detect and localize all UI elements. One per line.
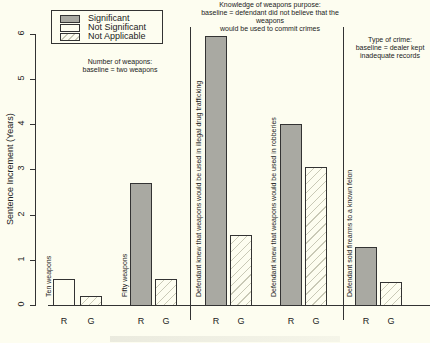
y-tick bbox=[30, 124, 35, 125]
category-label-fifty-weapons: Fifty weapons bbox=[121, 254, 128, 297]
bar-g bbox=[80, 296, 102, 306]
group-separator-2 bbox=[343, 27, 344, 320]
title-line: Knowledge of weapons purpose: bbox=[190, 1, 350, 9]
caption-cropped bbox=[110, 336, 340, 342]
bar-g bbox=[305, 167, 327, 306]
bar-r bbox=[130, 183, 152, 306]
x-label-g: G bbox=[80, 316, 102, 326]
title-line: would be used to commit crimes bbox=[190, 25, 350, 33]
x-label-g: G bbox=[305, 316, 327, 326]
y-axis-label: Sentence Increment (Years) bbox=[5, 115, 15, 225]
x-label-g: G bbox=[380, 316, 402, 326]
category-label-ten-weapons: Ten weapons bbox=[45, 256, 52, 297]
bar-r bbox=[280, 124, 302, 306]
y-tick bbox=[30, 305, 35, 306]
x-label-r: R bbox=[280, 316, 302, 326]
y-tick bbox=[30, 79, 35, 80]
title-line: Type of crime: bbox=[350, 36, 430, 44]
legend-swatch-not-significant bbox=[60, 24, 80, 32]
bar-r bbox=[205, 36, 227, 306]
group-title-knowledge: Knowledge of weapons purpose: baseline =… bbox=[190, 1, 350, 33]
group-title-type-of-crime: Type of crime: baseline = dealer kept in… bbox=[350, 36, 430, 60]
legend-swatch-not-applicable bbox=[60, 33, 80, 41]
legend: Significant Not Significant Not Applicab… bbox=[51, 10, 163, 44]
x-label-g: G bbox=[155, 316, 177, 326]
y-axis-line bbox=[35, 34, 36, 306]
bar-r bbox=[53, 279, 75, 306]
y-tick-label: 0 bbox=[16, 298, 26, 310]
y-tick bbox=[30, 260, 35, 261]
category-label-robberies: Defendant knew that weapons would be use… bbox=[270, 117, 277, 297]
title-line: Number of weapons: bbox=[60, 58, 180, 66]
category-label-known-felon: Defendant sold firearms to a known felon bbox=[346, 170, 353, 297]
y-tick-label: 6 bbox=[16, 27, 26, 39]
group-title-number-of-weapons: Number of weapons: baseline = two weapon… bbox=[60, 58, 180, 74]
x-label-r: R bbox=[205, 316, 227, 326]
bar-g bbox=[155, 279, 177, 306]
title-line: inadequate records bbox=[350, 52, 430, 60]
title-line: baseline = defendant did not believe tha… bbox=[190, 9, 350, 25]
y-tick-label: 3 bbox=[16, 162, 26, 174]
y-tick-label: 5 bbox=[16, 72, 26, 84]
x-label-r: R bbox=[355, 316, 377, 326]
legend-item-not-applicable: Not Applicable bbox=[60, 32, 146, 41]
y-tick-label: 1 bbox=[16, 253, 26, 265]
y-tick bbox=[30, 169, 35, 170]
x-label-r: R bbox=[130, 316, 152, 326]
y-tick bbox=[30, 215, 35, 216]
title-line: baseline = dealer kept bbox=[350, 44, 430, 52]
y-tick bbox=[30, 34, 35, 35]
bar-r bbox=[355, 247, 377, 306]
x-label-r: R bbox=[53, 316, 75, 326]
bar-g bbox=[380, 282, 402, 306]
y-tick-label: 2 bbox=[16, 208, 26, 220]
legend-swatch-significant bbox=[60, 15, 80, 23]
x-label-g: G bbox=[230, 316, 252, 326]
category-label-drug-trafficking: Defendant knew that weapons would be use… bbox=[195, 81, 202, 297]
title-line: baseline = two weapons bbox=[60, 66, 180, 74]
y-tick-label: 4 bbox=[16, 117, 26, 129]
group-separator-1 bbox=[190, 27, 191, 320]
bar-g bbox=[230, 235, 252, 306]
legend-label: Not Applicable bbox=[88, 32, 146, 41]
